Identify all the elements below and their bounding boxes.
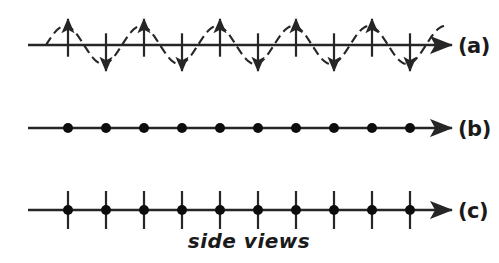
particle-dot-barred-8 [329,205,339,215]
row-b-dot-line [28,123,452,133]
particle-dot-6 [253,123,263,133]
side-views-figure: (a) (b) (c) side views [0,0,499,263]
particle-dot-barred-2 [101,205,111,215]
figure-container: (a) (b) (c) side views [0,0,499,263]
particle-dot-barred-1 [63,205,73,215]
particle-dot-barred-6 [253,205,263,215]
particle-dot-barred-9 [367,205,377,215]
figure-caption: side views [188,229,310,253]
particle-dot-7 [291,123,301,133]
particle-dot-3 [139,123,149,133]
particle-dot-1 [63,123,73,133]
particle-dot-2 [101,123,111,133]
particle-dot-barred-5 [215,205,225,215]
row-label-a: (a) [458,34,490,58]
particle-dot-barred-4 [177,205,187,215]
particle-dot-barred-10 [405,205,415,215]
particle-dot-8 [329,123,339,133]
particle-dot-10 [405,123,415,133]
row-c-dots-with-bars [28,191,452,229]
row-label-c: (c) [458,199,488,223]
row-a-transverse-wave [28,19,452,71]
particle-dot-9 [367,123,377,133]
particle-dot-4 [177,123,187,133]
row-label-b: (b) [458,117,491,141]
particle-dot-barred-3 [139,205,149,215]
particle-dot-5 [215,123,225,133]
particle-dot-barred-7 [291,205,301,215]
